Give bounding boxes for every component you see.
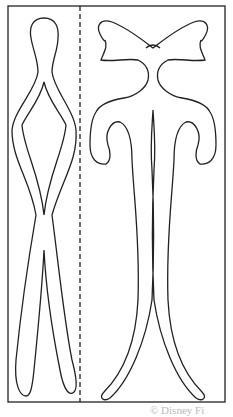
frame-border [8,6,225,402]
left-piece-outline [12,18,76,396]
right-piece-bow [90,21,216,400]
template-diagram [0,0,233,417]
copyright-caption: © Disney Fi [150,404,204,416]
